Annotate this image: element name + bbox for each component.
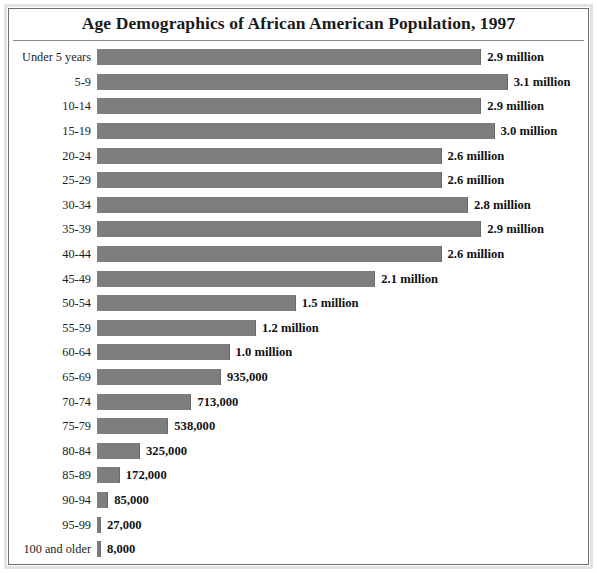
bar-value-label: 8,000 xyxy=(101,542,135,557)
category-label: 100 and older xyxy=(9,542,91,557)
bar-track: 2.6 million xyxy=(97,172,588,188)
category-label: 15-19 xyxy=(9,124,91,139)
bar-track: 27,000 xyxy=(97,517,588,533)
chart-row: 75-79538,000 xyxy=(9,414,588,439)
chart-title: Age Demographics of African American Pop… xyxy=(9,13,588,34)
bar-value-label: 27,000 xyxy=(101,517,142,532)
bar-track: 1.5 million xyxy=(97,295,588,311)
chart-page: Age Demographics of African American Pop… xyxy=(0,0,597,573)
bar-track: 8,000 xyxy=(97,541,588,557)
bar xyxy=(97,246,442,262)
bar xyxy=(97,148,442,164)
bar-value-label: 2.6 million xyxy=(442,148,505,163)
bar-value-label: 3.0 million xyxy=(495,124,558,139)
bar-value-label: 2.9 million xyxy=(481,99,544,114)
category-label: 70-74 xyxy=(9,394,91,409)
bar xyxy=(97,123,495,139)
bar-track: 172,000 xyxy=(97,467,588,483)
bar-track: 2.6 million xyxy=(97,246,588,262)
category-label: 80-84 xyxy=(9,443,91,458)
chart-row: 35-392.9 million xyxy=(9,217,588,242)
bar-track: 3.1 million xyxy=(97,74,588,90)
chart-row: 90-9485,000 xyxy=(9,488,588,513)
category-label: 65-69 xyxy=(9,370,91,385)
bar xyxy=(97,443,140,459)
category-label: 45-49 xyxy=(9,271,91,286)
bar-value-label: 325,000 xyxy=(140,443,187,458)
category-label: 25-29 xyxy=(9,173,91,188)
bar-value-label: 2.8 million xyxy=(468,197,531,212)
chart-row: 70-74713,000 xyxy=(9,389,588,414)
category-label: 40-44 xyxy=(9,247,91,262)
chart-row: 80-84325,000 xyxy=(9,439,588,464)
bar-track: 935,000 xyxy=(97,369,588,385)
bar-value-label: 172,000 xyxy=(120,468,167,483)
bar xyxy=(97,98,481,114)
bar-value-label: 2.6 million xyxy=(442,247,505,262)
bar-value-label: 2.1 million xyxy=(375,271,438,286)
bar xyxy=(97,320,256,336)
chart-row: 85-89172,000 xyxy=(9,463,588,488)
chart-row: 45-492.1 million xyxy=(9,266,588,291)
bar xyxy=(97,172,442,188)
category-label: 75-79 xyxy=(9,419,91,434)
bar xyxy=(97,418,168,434)
category-label: 20-24 xyxy=(9,148,91,163)
chart-row: 20-242.6 million xyxy=(9,143,588,168)
chart-row: 95-9927,000 xyxy=(9,512,588,537)
bar-track: 2.6 million xyxy=(97,148,588,164)
bar-value-label: 3.1 million xyxy=(508,74,571,89)
bar-track: 2.9 million xyxy=(97,49,588,65)
bar-value-label: 935,000 xyxy=(221,370,268,385)
bar xyxy=(97,394,191,410)
bar-chart-plot: Under 5 years2.9 million5-93.1 million10… xyxy=(9,45,588,564)
bar-value-label: 2.9 million xyxy=(481,50,544,65)
chart-content: Age Demographics of African American Pop… xyxy=(9,9,588,564)
chart-row: 55-591.2 million xyxy=(9,316,588,341)
bar-value-label: 538,000 xyxy=(168,419,215,434)
chart-row: 60-641.0 million xyxy=(9,340,588,365)
bar-value-label: 1.5 million xyxy=(296,296,359,311)
chart-row: 100 and older8,000 xyxy=(9,537,588,562)
bar xyxy=(97,344,230,360)
chart-row: 15-193.0 million xyxy=(9,119,588,144)
bar-track: 1.2 million xyxy=(97,320,588,336)
bar-track: 2.1 million xyxy=(97,271,588,287)
bar xyxy=(97,467,120,483)
bar xyxy=(97,295,296,311)
chart-row: 25-292.6 million xyxy=(9,168,588,193)
chart-row: Under 5 years2.9 million xyxy=(9,45,588,70)
bar-value-label: 85,000 xyxy=(108,493,149,508)
bar xyxy=(97,492,108,508)
bar xyxy=(97,49,481,65)
chart-row: 40-442.6 million xyxy=(9,242,588,267)
category-label: 10-14 xyxy=(9,99,91,114)
chart-row: 5-93.1 million xyxy=(9,70,588,95)
chart-row: 30-342.8 million xyxy=(9,193,588,218)
category-label: 85-89 xyxy=(9,468,91,483)
bar-track: 2.9 million xyxy=(97,98,588,114)
bar-track: 538,000 xyxy=(97,418,588,434)
bar-track: 3.0 million xyxy=(97,123,588,139)
bar xyxy=(97,271,375,287)
bar xyxy=(97,369,221,385)
bar-track: 85,000 xyxy=(97,492,588,508)
category-label: 35-39 xyxy=(9,222,91,237)
chart-row: 10-142.9 million xyxy=(9,94,588,119)
bar-value-label: 1.0 million xyxy=(230,345,293,360)
bar xyxy=(97,74,508,90)
bar-value-label: 1.2 million xyxy=(256,320,319,335)
category-label: 95-99 xyxy=(9,517,91,532)
bar-track: 1.0 million xyxy=(97,344,588,360)
category-label: 55-59 xyxy=(9,320,91,335)
category-label: 90-94 xyxy=(9,493,91,508)
bar-value-label: 2.9 million xyxy=(481,222,544,237)
bar-track: 2.8 million xyxy=(97,197,588,213)
bar-track: 713,000 xyxy=(97,394,588,410)
bar-value-label: 713,000 xyxy=(191,394,238,409)
category-label: 60-64 xyxy=(9,345,91,360)
category-label: 50-54 xyxy=(9,296,91,311)
category-label: 5-9 xyxy=(9,74,91,89)
bar-track: 325,000 xyxy=(97,443,588,459)
chart-row: 50-541.5 million xyxy=(9,291,588,316)
